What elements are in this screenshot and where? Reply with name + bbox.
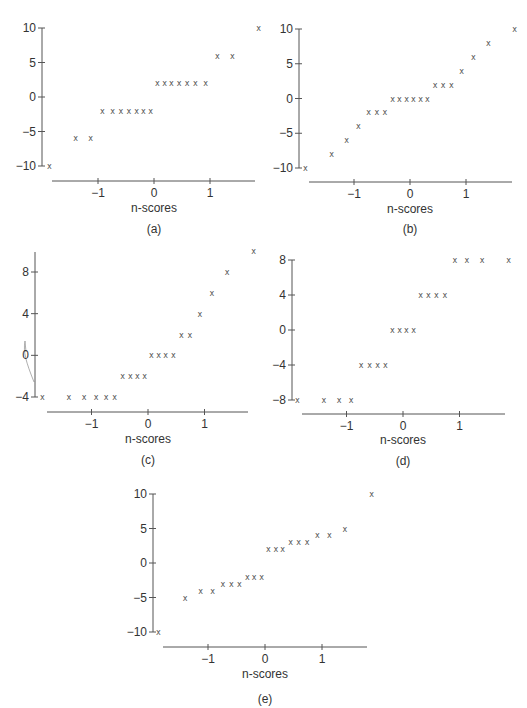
data-point-marker: x bbox=[135, 372, 140, 381]
y-tick-label: 4 bbox=[22, 307, 29, 321]
data-point-marker: x bbox=[155, 79, 160, 88]
y-tick-label: 5 bbox=[286, 57, 293, 71]
data-point-marker: x bbox=[464, 256, 469, 265]
y-tick-label: 10 bbox=[23, 21, 37, 35]
data-point-marker: x bbox=[126, 107, 131, 116]
data-point-marker: x bbox=[120, 372, 125, 381]
data-point-marker: x bbox=[369, 490, 374, 499]
x-tick-label: −1 bbox=[340, 419, 354, 433]
data-point-marker: x bbox=[245, 573, 250, 582]
data-point-marker: x bbox=[162, 79, 167, 88]
data-point-marker: x bbox=[349, 396, 354, 405]
x-tick-label: 1 bbox=[456, 419, 463, 433]
data-point-marker: x bbox=[342, 525, 347, 534]
data-point-marker: x bbox=[426, 291, 431, 300]
data-point-marker: x bbox=[480, 256, 485, 265]
data-point-marker: x bbox=[411, 326, 416, 335]
data-point-marker: x bbox=[280, 545, 285, 554]
y-tick-label: −5 bbox=[133, 591, 147, 605]
x-tick-label: −1 bbox=[91, 186, 105, 200]
data-point-marker: x bbox=[225, 268, 230, 277]
data-point-marker: x bbox=[215, 52, 220, 61]
data-point-marker: x bbox=[104, 393, 109, 402]
data-point-marker: x bbox=[210, 587, 215, 596]
data-point-marker: x bbox=[356, 122, 361, 131]
y-tick-label: 0 bbox=[22, 348, 29, 362]
y-tick-label: −5 bbox=[22, 125, 36, 139]
x-axis-title: n-scores bbox=[242, 667, 288, 681]
data-point-marker: x bbox=[229, 580, 234, 589]
x-tick-label: 1 bbox=[207, 186, 214, 200]
y-tick-label: 5 bbox=[140, 522, 147, 536]
data-point-marker: x bbox=[156, 351, 161, 360]
data-point-marker: x bbox=[296, 538, 301, 547]
data-point-marker: x bbox=[183, 594, 188, 603]
y-tick-label: 5 bbox=[29, 56, 36, 70]
data-point-marker: x bbox=[163, 351, 168, 360]
data-point-marker: x bbox=[375, 108, 380, 117]
y-tick-label: −10 bbox=[127, 625, 148, 639]
y-tick-label: −8 bbox=[272, 393, 286, 407]
x-tick-label: 0 bbox=[145, 417, 152, 431]
data-point-marker: x bbox=[471, 53, 476, 62]
data-point-marker: x bbox=[209, 289, 214, 298]
x-tick-label: 1 bbox=[319, 652, 326, 666]
data-point-marker: x bbox=[251, 247, 256, 256]
x-tick-label: 0 bbox=[407, 187, 414, 201]
x-tick-label: 0 bbox=[151, 186, 158, 200]
data-point-marker: x bbox=[112, 393, 117, 402]
data-point-marker: x bbox=[148, 107, 153, 116]
x-axis-title: n-scores bbox=[387, 202, 433, 216]
data-point-marker: x bbox=[198, 587, 203, 596]
data-point-marker: x bbox=[252, 573, 257, 582]
data-point-marker: x bbox=[337, 396, 342, 405]
data-point-marker: x bbox=[134, 107, 139, 116]
data-point-marker: x bbox=[198, 310, 203, 319]
figure-canvas: 1050−5−10−101n-scores(a)xxxxxxxxxxxxxxxx… bbox=[0, 0, 527, 708]
data-point-marker: x bbox=[418, 291, 423, 300]
data-point-marker: x bbox=[512, 25, 517, 34]
data-point-marker: x bbox=[322, 396, 327, 405]
data-point-marker: x bbox=[156, 628, 161, 637]
data-point-marker: x bbox=[375, 361, 380, 370]
plot-d: 840−4−8−101n-scores(d)xxxxxxxxxxxxxxxxxx… bbox=[272, 253, 511, 468]
data-point-marker: x bbox=[110, 107, 115, 116]
data-point-marker: x bbox=[486, 39, 491, 48]
data-point-marker: x bbox=[230, 52, 235, 61]
y-tick-label: 8 bbox=[22, 265, 29, 279]
data-point-marker: x bbox=[453, 256, 458, 265]
data-point-marker: x bbox=[82, 393, 87, 402]
x-tick-label: −1 bbox=[347, 187, 361, 201]
data-point-marker: x bbox=[390, 326, 395, 335]
data-point-marker: x bbox=[119, 107, 124, 116]
x-tick-label: −1 bbox=[85, 417, 99, 431]
data-point-marker: x bbox=[128, 372, 133, 381]
data-point-marker: x bbox=[256, 24, 261, 33]
y-tick-label: 4 bbox=[279, 288, 286, 302]
data-point-marker: x bbox=[506, 256, 511, 265]
data-point-marker: x bbox=[47, 162, 52, 171]
data-point-marker: x bbox=[441, 81, 446, 90]
data-point-marker: x bbox=[237, 580, 242, 589]
data-point-marker: x bbox=[73, 134, 78, 143]
panel-label: (c) bbox=[141, 453, 155, 467]
y-tick-label: −4 bbox=[15, 390, 29, 404]
plot-b: 1050−5−10−101n-scores(b)xxxxxxxxxxxxxxxx… bbox=[273, 22, 518, 236]
y-tick-label: 8 bbox=[279, 253, 286, 267]
data-point-marker: x bbox=[40, 393, 45, 402]
x-tick-label: 1 bbox=[201, 417, 208, 431]
data-point-marker: x bbox=[259, 573, 264, 582]
data-point-marker: x bbox=[327, 531, 332, 540]
data-point-marker: x bbox=[434, 291, 439, 300]
y-tick-label: −5 bbox=[279, 126, 293, 140]
data-point-marker: x bbox=[367, 361, 372, 370]
x-axis-title: n-scores bbox=[131, 201, 177, 215]
data-point-marker: x bbox=[329, 150, 334, 159]
data-point-marker: x bbox=[397, 326, 402, 335]
plot-e: 1050−5−10−101n-scores(e)xxxxxxxxxxxxxxxx… bbox=[127, 487, 375, 706]
data-point-marker: x bbox=[94, 393, 99, 402]
panel-label: (e) bbox=[258, 692, 273, 706]
data-point-marker: x bbox=[203, 79, 208, 88]
data-point-marker: x bbox=[220, 580, 225, 589]
data-point-marker: x bbox=[390, 95, 395, 104]
